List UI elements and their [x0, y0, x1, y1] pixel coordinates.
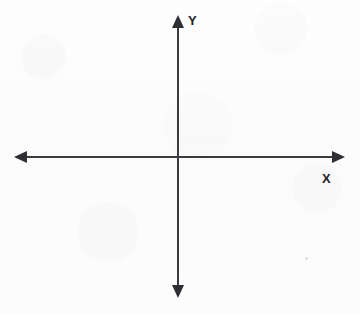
x-axis-left-arrowhead-icon [14, 151, 27, 163]
coordinate-axes-graphic [0, 0, 360, 314]
x-axis-right-arrowhead-icon [332, 151, 345, 163]
diagram-canvas: Y X [0, 0, 360, 314]
y-axis-bottom-arrowhead-icon [172, 285, 184, 298]
y-axis-label: Y [188, 14, 197, 27]
x-axis-group [14, 151, 345, 163]
y-axis-top-arrowhead-icon [172, 15, 184, 28]
x-axis-label: X [322, 172, 331, 185]
